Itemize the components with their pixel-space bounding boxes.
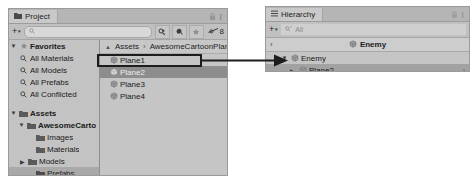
chevron-down-icon: ▾ [18, 29, 21, 34]
prefab-icon [108, 92, 119, 100]
asset-item-label: Plane2 [120, 68, 145, 77]
folder-icon [18, 110, 29, 117]
prefab-breadcrumb-title: Enemy [360, 40, 386, 49]
favorite-item-all-models[interactable]: All Models [9, 64, 99, 76]
tree-group-assets-label: Assets [30, 109, 56, 118]
chevron-down-icon[interactable]: ▼ [9, 43, 18, 49]
asset-item-label: Plane4 [120, 92, 145, 101]
asset-item-plane4[interactable]: Plane4 [100, 90, 227, 102]
hierarchy-search-input[interactable]: All [281, 24, 466, 35]
folder-icon [26, 122, 37, 129]
hierarchy-item-label: Enemy [301, 54, 326, 63]
folder-icon [35, 170, 46, 177]
chevron-down-icon[interactable]: ▼ [280, 55, 289, 61]
chevron-down-icon[interactable]: ▼ [9, 110, 18, 116]
asset-item-label: Plane1 [120, 56, 145, 65]
prefab-icon [297, 66, 308, 72]
create-gameobject-plus: + [269, 25, 274, 34]
tab-project[interactable]: Project [9, 10, 58, 23]
breadcrumb-root[interactable]: Assets [115, 42, 139, 51]
asset-item-plane1[interactable]: Plane1 [100, 54, 227, 66]
prefab-back-button[interactable]: ‹ [270, 38, 273, 51]
prefab-icon [289, 54, 300, 62]
hierarchy-item-plane2[interactable]: ▶ Plane2 › [266, 64, 469, 72]
asset-type-icon[interactable] [172, 25, 187, 39]
chevron-right-icon[interactable]: › [463, 67, 469, 73]
star-icon [18, 42, 29, 50]
asset-item-plane2[interactable]: Plane2 [100, 66, 227, 78]
prefab-icon [108, 80, 119, 88]
hierarchy-tree: ▼ Enemy ▶ Plane2 › [266, 52, 469, 72]
hierarchy-item-enemy[interactable]: ▼ Enemy [266, 52, 469, 64]
favorite-item-label: All Prefabs [30, 78, 69, 87]
tree-folder-label: Models [39, 157, 65, 166]
hierarchy-tab-right-icons [451, 6, 469, 23]
label-icon[interactable] [189, 25, 204, 39]
create-gameobject-button[interactable]: + ▾ [269, 25, 278, 34]
tab-hierarchy-label: Hierarchy [281, 10, 315, 19]
project-tree-column: ▼ Favorites [9, 40, 100, 176]
favorite-item-label: All Conflicted [30, 90, 77, 99]
favorite-item-label: All Materials [30, 54, 74, 63]
prefab-icon [108, 56, 119, 64]
panel-menu-icon[interactable] [461, 6, 465, 23]
search-icon [29, 28, 35, 35]
tree-folder-prefabs[interactable]: Prefabs [9, 167, 99, 176]
favorite-search-icon[interactable] [155, 25, 170, 39]
create-asset-button[interactable]: + ▾ [12, 27, 21, 36]
lock-icon[interactable] [451, 6, 458, 23]
breadcrumb-current[interactable]: AwesomeCartoonPlan [150, 42, 227, 51]
search-icon [18, 91, 29, 98]
tree-group-favorites[interactable]: ▼ Favorites [9, 40, 99, 52]
project-search-input[interactable] [24, 26, 151, 38]
favorite-item-all-materials[interactable]: All Materials [9, 52, 99, 64]
project-asset-list-column: ▲ Assets › AwesomeCartoonPlan Plane1 [100, 40, 227, 176]
prefab-breadcrumb-center[interactable]: Enemy [266, 40, 469, 50]
hierarchy-toolbar: + ▾ All [266, 22, 469, 38]
favorite-item-all-conflicted[interactable]: All Conflicted [9, 88, 99, 100]
asset-item-plane3[interactable]: Plane3 [100, 78, 227, 90]
tree-folder-images[interactable]: Images [9, 131, 99, 143]
slider-icon [208, 27, 219, 37]
folder-icon [14, 12, 22, 21]
tree-group-favorites-label: Favorites [30, 42, 66, 51]
prefab-icon [108, 68, 119, 76]
tree-folder-awesomecartoon[interactable]: ▼ AwesomeCarto [9, 119, 99, 131]
project-tab-right-icons [209, 8, 227, 25]
asset-list: Plane1 Plane2 [100, 54, 227, 102]
tree-folder-materials[interactable]: Materials [9, 143, 99, 155]
project-panel: Project + ▾ [8, 8, 228, 176]
thumbnail-size-slider[interactable]: 8 [206, 27, 224, 37]
tree-folder-models[interactable]: ▶ Models [9, 155, 99, 167]
hierarchy-icon [271, 10, 278, 19]
tab-project-label: Project [25, 12, 50, 21]
chevron-right-icon[interactable]: ▶ [288, 67, 297, 73]
tab-hierarchy[interactable]: Hierarchy [266, 8, 323, 21]
thumbnail-size-value: 8 [220, 27, 224, 36]
hierarchy-filter-label: All [295, 26, 303, 33]
asset-item-label: Plane3 [120, 80, 145, 89]
prefab-icon [349, 40, 357, 50]
screenshot-root: Project + ▾ [0, 0, 476, 185]
chevron-up-icon[interactable]: ▲ [105, 44, 111, 50]
search-icon [18, 79, 29, 86]
tree-group-assets[interactable]: ▼ Assets [9, 107, 99, 119]
favorite-item-all-prefabs[interactable]: All Prefabs [9, 76, 99, 88]
hierarchy-prefab-breadcrumb: ‹ Enemy [266, 38, 469, 52]
chevron-right-icon[interactable]: ▶ [18, 158, 27, 165]
tree-folder-label: AwesomeCarto [38, 121, 96, 130]
tree-folder-label: Materials [47, 145, 79, 154]
folder-icon [27, 158, 38, 165]
favorite-item-label: All Models [30, 66, 67, 75]
project-body: ▼ Favorites [9, 40, 227, 176]
create-asset-plus: + [12, 27, 17, 36]
panel-menu-icon[interactable] [219, 8, 223, 25]
chevron-down-icon: ▾ [275, 27, 278, 32]
hierarchy-tabstrip: Hierarchy [266, 7, 469, 22]
tree-spacer [9, 100, 99, 107]
search-icon [18, 55, 29, 62]
lock-icon[interactable] [209, 8, 216, 25]
chevron-down-icon[interactable]: ▼ [17, 122, 26, 128]
hierarchy-item-label: Plane2 [309, 66, 334, 73]
tree-folder-label: Prefabs [47, 169, 75, 177]
